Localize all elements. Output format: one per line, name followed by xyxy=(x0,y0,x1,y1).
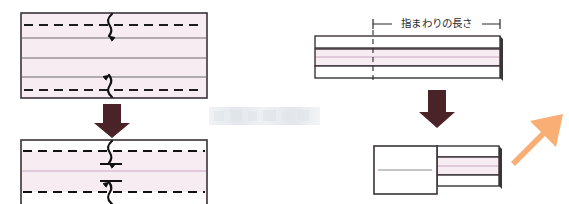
folded-white-strip-top xyxy=(22,141,206,151)
image-watermark xyxy=(209,107,320,125)
panel-flat-fabric-piece xyxy=(21,13,207,98)
finger-circumference-dimension: 指まわりの長さ xyxy=(373,15,500,33)
rolled-white-strip-top xyxy=(437,146,499,157)
dimension-label: 指まわりの長さ xyxy=(401,17,472,29)
band-shadow-edge xyxy=(500,36,503,81)
panel-band-strip-piece xyxy=(315,30,503,82)
band-white-strip-bottom xyxy=(315,66,500,78)
diagram-canvas: 指まわりの長さ xyxy=(0,0,569,204)
band-white-strip-top xyxy=(315,36,500,48)
rolled-shadow-edge xyxy=(499,146,502,189)
folded-white-strip-bottom xyxy=(22,192,206,204)
sewing-fold-diagram: 指まわりの長さ xyxy=(0,0,569,204)
panel-folded-fabric-piece xyxy=(21,140,207,204)
rolled-white-strip-bottom xyxy=(437,175,499,186)
